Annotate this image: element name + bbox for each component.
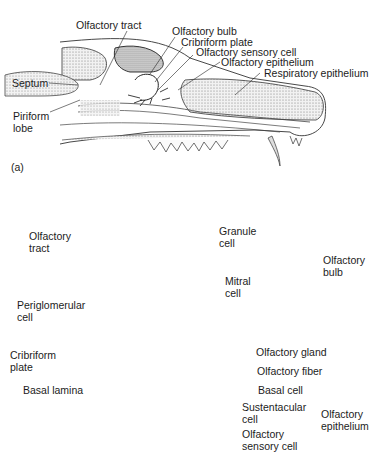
label-olfactory-epithelium-b: Olfactory epithelium bbox=[321, 408, 369, 432]
mitral-line1: Mitral bbox=[225, 275, 251, 287]
label-olfactory-tract-b: Olfactory tract bbox=[29, 230, 71, 254]
label-olfactory-gland: Olfactory gland bbox=[256, 347, 327, 358]
epithelium-line1: Olfactory bbox=[321, 408, 369, 420]
olfactory-tract-line2: tract bbox=[29, 242, 71, 254]
panel-label-a: (a) bbox=[11, 162, 24, 173]
label-olfactory-sensory-cell-b: Olfactory sensory cell bbox=[242, 428, 297, 452]
olfactory-tract-line1: Olfactory bbox=[29, 230, 71, 242]
cribriform-line1: Cribriform bbox=[10, 349, 56, 361]
label-granule-cell: Granule cell bbox=[219, 225, 256, 249]
piriform-line1: Piriform bbox=[13, 110, 49, 122]
label-septum: Septum bbox=[12, 78, 48, 89]
label-olfactory-tract-a: Olfactory tract bbox=[76, 20, 141, 31]
label-olfactory-fiber: Olfactory fiber bbox=[257, 366, 322, 377]
sustentacular-line1: Sustentacular bbox=[242, 401, 306, 413]
sensory-line2: sensory cell bbox=[242, 440, 297, 452]
epithelium-line2: epithelium bbox=[321, 420, 369, 432]
periglomerular-line1: Periglomerular bbox=[17, 299, 85, 311]
sustentacular-line2: cell bbox=[242, 413, 306, 425]
label-sustentacular-cell: Sustentacular cell bbox=[242, 401, 306, 425]
label-mitral-cell: Mitral cell bbox=[225, 275, 251, 299]
granule-line2: cell bbox=[219, 237, 256, 249]
sensory-line1: Olfactory bbox=[242, 428, 297, 440]
label-piriform-lobe: Piriform lobe bbox=[13, 110, 49, 134]
olfactory-bulb-line1: Olfactory bbox=[323, 254, 365, 266]
granule-line1: Granule bbox=[219, 225, 256, 237]
periglomerular-line2: cell bbox=[17, 311, 85, 323]
piriform-line2: lobe bbox=[13, 122, 49, 134]
label-basal-lamina: Basal lamina bbox=[23, 385, 83, 396]
cribriform-line2: plate bbox=[10, 361, 56, 373]
label-periglomerular-cell: Periglomerular cell bbox=[17, 299, 85, 323]
label-cribriform-plate-b: Cribriform plate bbox=[10, 349, 56, 373]
mitral-line2: cell bbox=[225, 287, 251, 299]
label-basal-cell: Basal cell bbox=[258, 385, 303, 396]
teeth bbox=[148, 136, 302, 166]
label-respiratory-epithelium: Respiratory epithelium bbox=[264, 68, 368, 79]
label-olfactory-bulb-b: Olfactory bulb bbox=[323, 254, 365, 278]
olfactory-bulb-line2: bulb bbox=[323, 266, 365, 278]
